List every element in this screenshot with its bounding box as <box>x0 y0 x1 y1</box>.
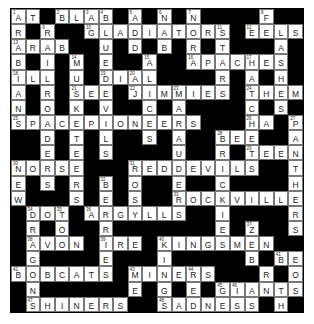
letter-cell[interactable]: 38A <box>26 236 41 251</box>
letter-cell[interactable]: H <box>40 297 55 312</box>
letter-cell[interactable]: A <box>113 24 128 39</box>
letter-cell[interactable]: E <box>11 176 26 191</box>
letter-cell[interactable]: 40K <box>157 236 172 251</box>
letter-cell[interactable]: N <box>259 236 274 251</box>
letter-cell[interactable]: S <box>274 100 289 115</box>
letter-cell[interactable]: 12E <box>245 24 260 39</box>
letter-cell[interactable]: O <box>40 206 55 221</box>
letter-cell[interactable]: S <box>99 266 114 281</box>
letter-cell[interactable]: R <box>99 297 114 312</box>
letter-cell[interactable]: E <box>172 176 187 191</box>
letter-cell[interactable]: N <box>11 100 26 115</box>
letter-cell[interactable]: N <box>201 297 216 312</box>
letter-cell[interactable]: 15A <box>142 54 157 69</box>
letter-cell[interactable]: C <box>245 100 260 115</box>
letter-cell[interactable]: E <box>186 282 201 297</box>
letter-cell[interactable]: S <box>245 160 260 175</box>
letter-cell[interactable]: I <box>40 54 55 69</box>
letter-cell[interactable]: R <box>40 85 55 100</box>
letter-cell[interactable]: 39I <box>99 236 114 251</box>
letter-cell[interactable]: E <box>69 145 84 160</box>
letter-cell[interactable]: D <box>172 160 187 175</box>
letter-cell[interactable]: T <box>215 39 230 54</box>
letter-cell[interactable]: E <box>201 85 216 100</box>
letter-cell[interactable]: I <box>142 85 157 100</box>
letter-cell[interactable]: R <box>259 266 274 281</box>
letter-cell[interactable]: E <box>84 85 99 100</box>
letter-cell[interactable]: 21S <box>69 85 84 100</box>
letter-cell[interactable]: O <box>113 115 128 130</box>
letter-cell[interactable]: N <box>128 115 143 130</box>
letter-cell[interactable]: S <box>172 206 187 221</box>
letter-cell[interactable]: P <box>201 54 216 69</box>
letter-cell[interactable]: 24T <box>245 85 260 100</box>
letter-cell[interactable]: 46I <box>230 282 245 297</box>
letter-cell[interactable]: 30N <box>11 160 26 175</box>
letter-cell[interactable]: E <box>99 191 114 206</box>
letter-cell[interactable]: I <box>157 251 172 266</box>
letter-cell[interactable]: L <box>274 191 289 206</box>
letter-cell[interactable]: 6N <box>157 9 172 24</box>
letter-cell[interactable]: S <box>142 130 157 145</box>
letter-cell[interactable]: E <box>215 297 230 312</box>
letter-cell[interactable]: I <box>142 24 157 39</box>
letter-cell[interactable]: E <box>186 160 201 175</box>
letter-cell[interactable]: E <box>215 221 230 236</box>
letter-cell[interactable]: 29T <box>245 145 260 160</box>
letter-cell[interactable]: 23M <box>172 85 187 100</box>
letter-cell[interactable]: 34D <box>26 206 41 221</box>
letter-cell[interactable]: M <box>157 85 172 100</box>
letter-cell[interactable]: S <box>69 191 84 206</box>
letter-cell[interactable]: E <box>274 145 289 160</box>
letter-cell[interactable]: S <box>215 85 230 100</box>
letter-cell[interactable]: 43M <box>128 266 143 281</box>
letter-cell[interactable]: T <box>288 160 303 175</box>
letter-cell[interactable]: E <box>40 145 55 160</box>
letter-cell[interactable]: 28B <box>215 130 230 145</box>
letter-cell[interactable]: H <box>259 85 274 100</box>
letter-cell[interactable]: A <box>259 115 274 130</box>
letter-cell[interactable]: I <box>215 160 230 175</box>
letter-cell[interactable]: B <box>157 39 172 54</box>
letter-cell[interactable]: A <box>288 130 303 145</box>
letter-cell[interactable]: 42B <box>11 266 26 281</box>
letter-cell[interactable]: E <box>157 115 172 130</box>
letter-cell[interactable]: 20A <box>128 70 143 85</box>
letter-cell[interactable]: S <box>186 115 201 130</box>
letter-cell[interactable]: 45G <box>215 282 230 297</box>
letter-cell[interactable]: 26H <box>245 115 260 130</box>
letter-cell[interactable]: H <box>288 176 303 191</box>
letter-cell[interactable]: A <box>172 297 187 312</box>
letter-cell[interactable]: L <box>142 206 157 221</box>
letter-cell[interactable]: N <box>288 145 303 160</box>
letter-cell[interactable]: S <box>215 236 230 251</box>
letter-cell[interactable]: A <box>40 115 55 130</box>
letter-cell[interactable]: L <box>40 70 55 85</box>
letter-cell[interactable]: 27P <box>288 115 303 130</box>
letter-cell[interactable]: C <box>230 54 245 69</box>
letter-cell[interactable]: P <box>26 115 41 130</box>
letter-cell[interactable]: A <box>245 70 260 85</box>
letter-cell[interactable]: H <box>274 297 289 312</box>
letter-cell[interactable]: 1A <box>11 9 26 24</box>
letter-cell[interactable]: B <box>55 39 70 54</box>
letter-cell[interactable]: E <box>99 54 114 69</box>
letter-cell[interactable]: L <box>274 24 289 39</box>
letter-cell[interactable]: 44R <box>186 266 201 281</box>
letter-cell[interactable]: S <box>230 297 245 312</box>
letter-cell[interactable]: S <box>128 191 143 206</box>
letter-cell[interactable]: 33R <box>172 191 187 206</box>
letter-cell[interactable]: R <box>288 206 303 221</box>
letter-cell[interactable]: E <box>128 282 143 297</box>
letter-cell[interactable]: O <box>186 24 201 39</box>
letter-cell[interactable]: A <box>245 282 260 297</box>
letter-cell[interactable]: S <box>99 145 114 160</box>
letter-cell[interactable]: E <box>230 130 245 145</box>
letter-cell[interactable]: U <box>99 39 114 54</box>
letter-cell[interactable]: S <box>113 297 128 312</box>
letter-cell[interactable]: N <box>259 282 274 297</box>
letter-cell[interactable]: 31R <box>128 160 143 175</box>
letter-cell[interactable]: 18I <box>11 70 26 85</box>
letter-cell[interactable]: R <box>11 24 26 39</box>
letter-cell[interactable]: T <box>84 266 99 281</box>
